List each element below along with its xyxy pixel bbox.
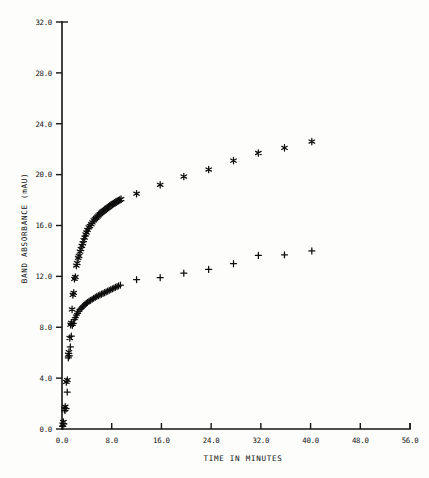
data-point-plus <box>157 275 163 281</box>
y-tick-label: 32.0 <box>35 18 52 27</box>
series-lower-series <box>60 248 315 430</box>
x-tick-label: 16.0 <box>153 436 170 445</box>
y-axis-title: BAND ABSORBANCE (mAU) <box>20 173 29 284</box>
x-tick-label: 56.0 <box>402 436 419 445</box>
axes <box>62 22 410 429</box>
data-point-star <box>69 306 75 312</box>
chart-figure: 0.08.016.024.032.040.048.056.0 0.04.08.0… <box>0 0 429 478</box>
x-tick-label: 32.0 <box>253 436 270 445</box>
y-tick-label: 4.0 <box>40 374 52 383</box>
data-point-star <box>256 150 262 156</box>
y-axis-ticks: 0.04.08.012.016.020.024.028.032.0 <box>35 18 62 434</box>
data-point-star <box>181 173 187 179</box>
data-point-plus <box>309 248 315 254</box>
x-axis-title: TIME IN MINUTES <box>203 454 282 463</box>
x-tick-label: 24.0 <box>203 436 220 445</box>
data-point-plus <box>281 252 287 258</box>
data-point-star <box>282 145 288 151</box>
y-tick-label: 28.0 <box>35 69 52 78</box>
y-tick-label: 16.0 <box>35 221 52 230</box>
data-point-plus <box>255 252 261 258</box>
x-tick-label: 40.0 <box>302 436 319 445</box>
series-upper-series <box>60 138 315 427</box>
y-tick-label: 20.0 <box>35 170 52 179</box>
data-series-layer <box>60 138 315 429</box>
y-tick-label: 12.0 <box>35 272 52 281</box>
x-axis-ticks: 0.08.016.024.032.040.048.056.0 <box>56 423 419 445</box>
data-point-star <box>231 157 237 163</box>
data-point-plus <box>206 266 212 272</box>
y-tick-label: 8.0 <box>40 323 52 332</box>
x-tick-label: 0.0 <box>56 436 68 445</box>
scatter-plot: 0.08.016.024.032.040.048.056.0 0.04.08.0… <box>0 0 429 478</box>
y-tick-label: 0.0 <box>40 425 52 434</box>
x-tick-label: 48.0 <box>352 436 369 445</box>
data-point-star <box>206 166 212 172</box>
data-point-star <box>309 138 315 144</box>
data-point-plus <box>134 277 140 283</box>
data-point-star <box>134 191 140 197</box>
data-point-plus <box>231 261 237 267</box>
data-point-plus <box>181 270 187 276</box>
x-tick-label: 8.0 <box>105 436 117 445</box>
data-point-plus <box>64 389 70 395</box>
data-point-star <box>157 182 163 188</box>
y-tick-label: 24.0 <box>35 120 52 129</box>
data-point-plus <box>67 344 73 350</box>
